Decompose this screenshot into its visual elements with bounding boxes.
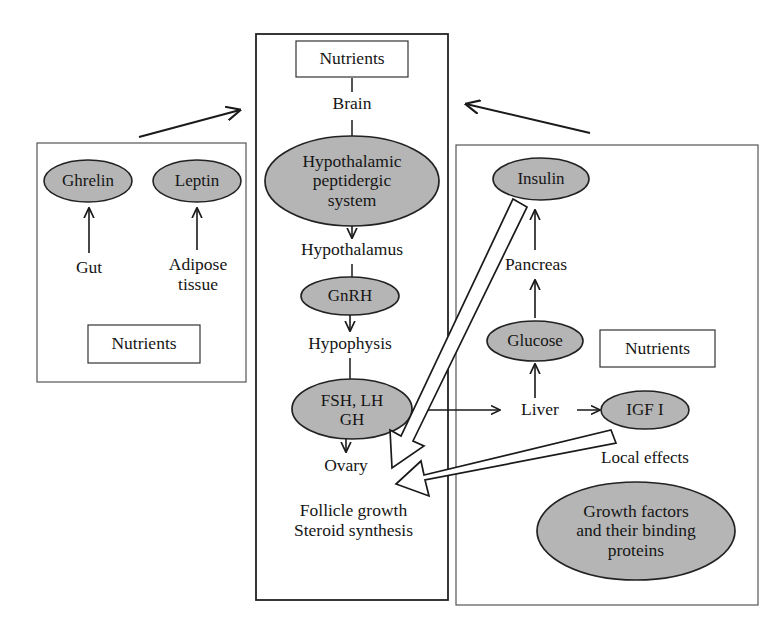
diagram-canvas: Ghrelin Leptin Gut Adipose tissue Nutrie… [0,0,776,633]
growth-factors-node [537,482,735,580]
diagram-vector-layer [0,0,776,633]
glucose-node [487,321,583,361]
nutrients-box-center [296,41,408,77]
nutrients-box-right [600,330,715,367]
gnrh-node [301,277,399,315]
nutrients-box-left [88,325,200,363]
leptin-node [153,160,241,202]
igf1-node [601,391,689,429]
insulin-node [493,158,589,200]
hollow-arrow-igf1-to-outcome [396,430,616,496]
fsh-lh-gh-node [292,379,412,439]
edge-left-panel-to-center [139,110,240,137]
hypothalamic-peptidergic-system-node [265,136,439,226]
edge-right-panel-to-center [466,104,590,133]
center-panel-frame [256,34,448,600]
ghrelin-node [44,160,132,202]
